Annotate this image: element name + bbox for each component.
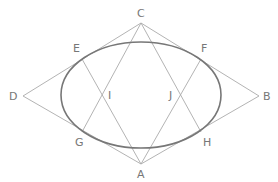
label-E: E — [73, 42, 80, 55]
label-F: F — [201, 42, 207, 55]
label-A: A — [137, 168, 145, 181]
label-D: D — [9, 90, 17, 103]
segment-CG — [82, 23, 141, 132]
label-B: B — [263, 90, 271, 103]
label-I: I — [108, 89, 111, 102]
label-G: G — [75, 136, 84, 149]
label-H: H — [203, 136, 211, 149]
inscribed-ellipse — [61, 42, 221, 148]
geometry-diagram: C A D B E F G H I J — [0, 0, 278, 182]
label-J: J — [168, 89, 172, 102]
segment-CH — [141, 23, 201, 132]
label-C: C — [137, 7, 145, 20]
